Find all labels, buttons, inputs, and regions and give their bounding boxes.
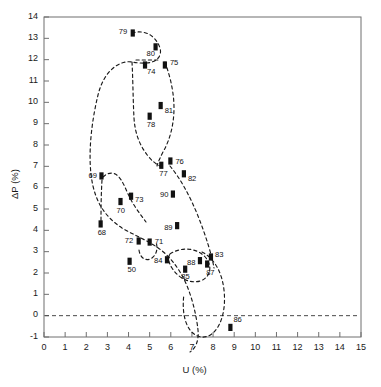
data-point-50	[127, 258, 131, 265]
y-tick-label: 1	[14, 288, 38, 298]
point-label-79: 79	[119, 27, 127, 36]
point-label-72: 72	[125, 236, 133, 245]
y-tick-label: 0	[14, 309, 38, 319]
data-point-77	[159, 162, 163, 169]
data-point-70	[118, 198, 122, 205]
point-label-77: 77	[159, 169, 167, 178]
data-point-71	[148, 238, 152, 245]
y-tick-label: -1	[14, 331, 38, 341]
point-label-68: 68	[98, 228, 106, 237]
y-tick-label: 4	[14, 224, 38, 234]
data-point-84	[165, 256, 169, 263]
point-label-82: 82	[188, 174, 196, 183]
y-tick-label: 3	[14, 245, 38, 255]
point-label-50: 50	[128, 265, 136, 274]
point-label-85: 85	[181, 272, 189, 281]
point-label-75: 75	[170, 58, 178, 67]
data-point-72	[137, 237, 141, 244]
point-label-78: 78	[147, 120, 155, 129]
point-label-84: 84	[154, 256, 162, 265]
point-label-69: 69	[88, 171, 96, 180]
y-tick-label: 9	[14, 117, 38, 127]
data-point-75	[163, 61, 167, 68]
x-tick-label: 15	[349, 342, 373, 352]
inner-loop-74-81	[132, 62, 160, 166]
chart-canvas	[0, 0, 381, 387]
point-label-89: 89	[164, 223, 172, 232]
point-label-83: 83	[215, 250, 223, 259]
data-point-90	[171, 190, 175, 197]
point-label-71: 71	[155, 237, 163, 246]
x-axis-title: U (%)	[183, 364, 207, 375]
point-label-86: 86	[233, 315, 241, 324]
point-label-81: 81	[165, 106, 173, 115]
y-tick-label: 12	[14, 53, 38, 63]
point-label-73: 73	[135, 195, 143, 204]
data-point-83	[209, 253, 213, 260]
trajectory-curves	[90, 32, 224, 352]
data-point-86	[228, 324, 232, 331]
point-label-90: 90	[160, 190, 168, 199]
data-point-69	[99, 172, 103, 179]
y-tick-label: 2	[14, 267, 38, 277]
data-point-81	[159, 102, 163, 109]
data-point-76	[168, 157, 172, 164]
data-point-89	[175, 222, 179, 229]
data-point-73	[129, 193, 133, 200]
y-tick-label: 13	[14, 32, 38, 42]
data-point-78	[148, 113, 152, 120]
main-loop	[90, 32, 198, 352]
point-label-76: 76	[175, 157, 183, 166]
y-tick-label: 10	[14, 96, 38, 106]
data-point-79	[131, 29, 135, 36]
data-point-68	[99, 220, 103, 227]
y-tick-label: 11	[14, 75, 38, 85]
data-point-82	[182, 170, 186, 177]
point-label-74: 74	[147, 67, 155, 76]
chart-figure: 5068697071727374757677787980818283848586…	[0, 0, 381, 387]
point-label-70: 70	[117, 206, 125, 215]
data-point-markers	[99, 29, 233, 331]
point-label-88: 88	[187, 258, 195, 267]
y-tick-label: 8	[14, 139, 38, 149]
point-label-80: 80	[147, 49, 155, 58]
point-label-87: 87	[206, 268, 214, 277]
data-point-88	[198, 257, 202, 264]
y-tick-label: 14	[14, 11, 38, 21]
data-point-87	[205, 260, 209, 267]
y-axis-title: ΔP (%)	[9, 169, 20, 199]
y-tick-label: 5	[14, 203, 38, 213]
